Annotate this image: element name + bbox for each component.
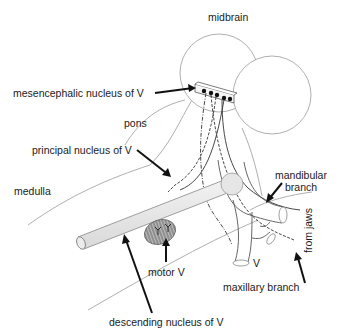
label-mesencephalic-nucleus: mesencephalic nucleus of V bbox=[13, 88, 144, 99]
label-descending-nucleus: descending nucleus of V bbox=[109, 317, 223, 328]
label-from-jaws: from jaws bbox=[303, 208, 314, 253]
label-midbrain: midbrain bbox=[208, 12, 248, 23]
label-medulla: medulla bbox=[14, 186, 51, 197]
label-motor-v: motor V bbox=[148, 267, 185, 278]
midbrain-lobe-right bbox=[233, 56, 311, 134]
label-mandibular-branch-line1: mandibular bbox=[275, 170, 327, 181]
label-mandibular-branch-line2: branch bbox=[285, 182, 317, 193]
principal-nucleus-shape bbox=[221, 173, 243, 195]
label-principal-nucleus: principal nucleus of V bbox=[32, 145, 132, 156]
label-v: V bbox=[253, 258, 260, 269]
label-maxillary-branch: maxillary branch bbox=[223, 282, 299, 293]
label-pons: pons bbox=[124, 118, 147, 129]
